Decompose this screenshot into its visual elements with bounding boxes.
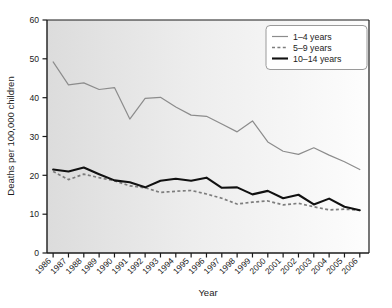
y-tick-label: 40 bbox=[29, 93, 39, 103]
y-tick-label: 20 bbox=[29, 171, 39, 181]
x-axis-title: Year bbox=[198, 287, 217, 298]
y-tick-label: 60 bbox=[29, 15, 39, 25]
y-axis-title: Deaths per 100,000 children bbox=[5, 76, 16, 195]
y-tick-label: 0 bbox=[34, 248, 39, 258]
x-axis-tick-labels: 1986198719881989199019911992199319941995… bbox=[33, 256, 360, 276]
chart-figure: 0 10 20 30 40 50 60 Deaths per 100,000 c… bbox=[0, 0, 392, 308]
x-axis-ticks bbox=[53, 253, 360, 258]
x-tick-label: 2006 bbox=[339, 256, 359, 276]
y-tick-label: 30 bbox=[29, 132, 39, 142]
line-chart: 0 10 20 30 40 50 60 Deaths per 100,000 c… bbox=[0, 0, 392, 308]
y-tick-label: 10 bbox=[29, 209, 39, 219]
legend-label-5-9-years: 5–9 years bbox=[293, 43, 332, 53]
legend-label-10-14-years: 10–14 years bbox=[293, 54, 342, 64]
legend-label-1-4-years: 1–4 years bbox=[293, 32, 332, 42]
y-tick-label: 50 bbox=[29, 54, 39, 64]
chart-legend: 1–4 years 5–9 years 10–14 years bbox=[266, 26, 367, 70]
y-axis-tick-labels: 0 10 20 30 40 50 60 bbox=[29, 15, 39, 258]
